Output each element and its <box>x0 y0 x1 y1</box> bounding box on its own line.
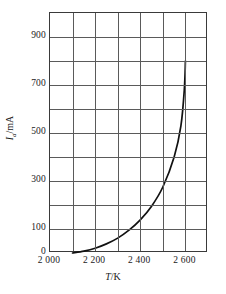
gridline-horizontal <box>50 85 206 86</box>
gridline-vertical <box>185 13 186 251</box>
gridline-horizontal <box>50 157 206 158</box>
x-axis-tick-label: 2 400 <box>114 255 164 265</box>
gridline-horizontal <box>50 133 206 134</box>
gridline-horizontal <box>50 229 206 230</box>
gridline-vertical <box>163 13 164 251</box>
gridline-horizontal <box>50 181 206 182</box>
chart-figure: 0100300500700900 Ia/mA 2 0002 2002 4002 … <box>0 0 226 294</box>
y-axis-tick-label: 300 <box>2 175 46 185</box>
y-axis-title: Ia/mA <box>4 98 20 158</box>
y-axis-unit: /mA <box>4 116 15 134</box>
x-axis-tick-label: 2 600 <box>159 255 209 265</box>
y-axis-tick-label: 100 <box>2 223 46 233</box>
x-axis-tick-label: 2 200 <box>69 255 119 265</box>
gridline-horizontal <box>50 61 206 62</box>
y-axis-symbol: I <box>4 137 15 140</box>
y-axis-tick-label: 700 <box>2 79 46 89</box>
x-axis-tick-labels: 2 0002 2002 4002 600 <box>0 255 226 269</box>
gridline-horizontal <box>50 37 206 38</box>
x-axis-tick-label: 2 000 <box>24 255 74 265</box>
gridline-vertical <box>95 13 96 251</box>
plot-area <box>49 12 207 252</box>
y-axis-subscript: a <box>10 133 18 137</box>
y-axis-tick-label: 900 <box>2 31 46 41</box>
gridline-horizontal <box>50 205 206 206</box>
gridline-horizontal <box>50 109 206 110</box>
gridline-vertical <box>140 13 141 251</box>
x-axis-unit: /K <box>111 271 121 282</box>
gridline-vertical <box>118 13 119 251</box>
x-axis-title: T/K <box>0 271 226 282</box>
gridline-vertical <box>73 13 74 251</box>
